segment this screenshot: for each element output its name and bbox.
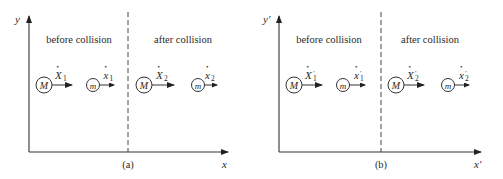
svg-text:m: m	[340, 81, 347, 91]
body-m-after: m • x ′ 2	[442, 63, 470, 92]
y-axis-label: y	[14, 13, 20, 25]
body-M-after: M • X 2	[136, 63, 174, 93]
velocity-label: X	[155, 69, 164, 81]
svg-text:2: 2	[211, 74, 215, 83]
velocity-label: x	[458, 69, 464, 81]
velocity-label: X	[406, 69, 415, 81]
collision-diagram: y x (a) before collision after collision…	[0, 0, 503, 179]
svg-text:m: m	[90, 81, 97, 91]
svg-text:m: m	[445, 81, 452, 91]
body-M-before: M • X ′ 1	[286, 63, 322, 93]
svg-text:M: M	[289, 80, 299, 91]
svg-text:M: M	[391, 80, 401, 91]
panel-a: y x (a) before collision after collision…	[14, 12, 228, 171]
body-m-before: m • x ′ 1	[337, 63, 366, 92]
svg-text:2: 2	[465, 74, 469, 83]
after-collision-label: after collision	[154, 34, 213, 45]
body-m-after: m • x 2	[192, 63, 218, 92]
svg-text:M: M	[39, 80, 49, 91]
svg-text:m: m	[195, 81, 202, 91]
svg-text:2: 2	[164, 74, 168, 83]
svg-text:1: 1	[313, 74, 317, 83]
y-axis-label: y′	[262, 13, 271, 25]
panel-caption: (a)	[122, 159, 134, 171]
body-M-before: M • X 1	[36, 63, 72, 93]
before-collision-label: before collision	[296, 34, 362, 45]
velocity-label: x	[103, 69, 109, 81]
panel-caption: (b)	[375, 159, 388, 171]
svg-text:2: 2	[415, 74, 419, 83]
svg-text:M: M	[139, 80, 149, 91]
svg-text:1: 1	[360, 74, 364, 83]
velocity-label: X	[54, 69, 63, 81]
velocity-label: x	[204, 69, 210, 81]
panel-b: y′ x′ (b) before collision after collisi…	[262, 12, 482, 171]
x-axis-label: x′	[473, 158, 482, 170]
velocity-label: x	[353, 69, 359, 81]
svg-text:1: 1	[63, 74, 67, 83]
velocity-label: X	[304, 69, 313, 81]
before-collision-label: before collision	[46, 34, 112, 45]
svg-text:1: 1	[110, 74, 114, 83]
after-collision-label: after collision	[401, 34, 460, 45]
x-axis-label: x	[221, 158, 227, 170]
body-M-after: M • X ′ 2	[388, 63, 424, 93]
body-m-before: m • x 1	[87, 63, 115, 92]
